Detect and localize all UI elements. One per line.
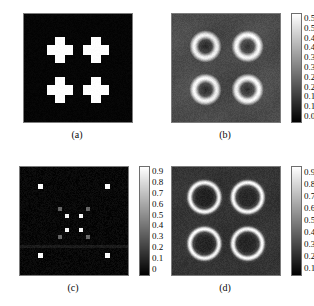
colorbar-tick-label: 0.2 bbox=[304, 82, 314, 91]
panel-a: (a) bbox=[23, 13, 133, 123]
colorbar-tick-label: 0.9 bbox=[304, 168, 314, 177]
panel-d-colorbar: 0.90.80.70.60.50.40.30.20.1 bbox=[291, 166, 314, 274]
colorbar-tick-label: 0.1 bbox=[304, 102, 314, 111]
panel-a-image bbox=[23, 13, 133, 123]
colorbar-tick-label: 0.5 bbox=[304, 216, 314, 225]
panel-a-label: (a) bbox=[23, 129, 131, 140]
colorbar-tick-label: 0.9 bbox=[152, 167, 163, 176]
panel-d-colorbar-strip bbox=[291, 166, 302, 276]
colorbar-tick-label: 0.2 bbox=[152, 243, 163, 252]
panel-d-image bbox=[171, 166, 281, 276]
panel-d-label: (d) bbox=[171, 282, 279, 293]
colorbar-tick-label: 0.4 bbox=[304, 43, 314, 52]
colorbar-tick-label: 0 bbox=[152, 264, 157, 273]
panel-d-colorbar-gradient bbox=[292, 167, 301, 275]
panel-b-colorbar: 0.550.50.450.40.350.30.250.20.150.10.05 bbox=[291, 13, 314, 121]
panel-c-label: (c) bbox=[19, 282, 127, 293]
colorbar-tick-label: 0.7 bbox=[152, 189, 163, 198]
panel-d-colorbar-ticks: 0.90.80.70.60.50.40.30.20.1 bbox=[304, 166, 314, 274]
colorbar-tick-label: 0.05 bbox=[304, 112, 314, 121]
colorbar-tick-label: 0.5 bbox=[152, 210, 163, 219]
panel-d-canvas bbox=[172, 167, 280, 275]
panel-b-colorbar-gradient bbox=[292, 14, 301, 122]
colorbar-tick-label: 0.8 bbox=[152, 178, 163, 187]
panel-c-image bbox=[19, 166, 129, 276]
colorbar-tick-label: 0.25 bbox=[304, 72, 314, 81]
panel-b: 0.550.50.450.40.350.30.250.20.150.10.05 … bbox=[171, 13, 281, 123]
panel-c-colorbar-strip bbox=[139, 166, 150, 276]
panel-c: 0.90.80.70.60.50.40.30.20.10 (c) bbox=[19, 166, 129, 276]
colorbar-tick-label: 0.3 bbox=[304, 63, 314, 72]
panel-b-image bbox=[171, 13, 281, 123]
colorbar-tick-label: 0.35 bbox=[304, 53, 314, 62]
panel-b-colorbar-strip bbox=[291, 13, 302, 123]
colorbar-tick-label: 0.3 bbox=[304, 240, 314, 249]
panel-d: 0.90.80.70.60.50.40.30.20.1 (d) bbox=[171, 166, 281, 276]
figure-container: (a) 0.550.50.450.40.350.30.250.20.150.10… bbox=[0, 0, 314, 306]
panel-a-canvas bbox=[24, 14, 132, 122]
colorbar-tick-label: 0.4 bbox=[304, 228, 314, 237]
panel-b-canvas bbox=[172, 14, 280, 122]
colorbar-tick-label: 0.3 bbox=[152, 232, 163, 241]
colorbar-tick-label: 0.6 bbox=[152, 199, 163, 208]
panel-b-colorbar-ticks: 0.550.50.450.40.350.30.250.20.150.10.05 bbox=[304, 13, 314, 121]
colorbar-tick-label: 0.55 bbox=[304, 13, 314, 22]
colorbar-tick-label: 0.5 bbox=[304, 23, 314, 32]
colorbar-tick-label: 0.2 bbox=[304, 252, 314, 261]
panel-c-colorbar-gradient bbox=[140, 167, 149, 275]
colorbar-tick-label: 0.1 bbox=[304, 264, 314, 273]
colorbar-tick-label: 0.4 bbox=[152, 221, 163, 230]
colorbar-tick-label: 0.45 bbox=[304, 33, 314, 42]
colorbar-tick-label: 0.7 bbox=[304, 192, 314, 201]
colorbar-tick-label: 0.6 bbox=[304, 204, 314, 213]
colorbar-tick-label: 0.1 bbox=[152, 253, 163, 262]
colorbar-tick-label: 0.15 bbox=[304, 92, 314, 101]
panel-b-label: (b) bbox=[171, 129, 279, 140]
colorbar-tick-label: 0.8 bbox=[304, 180, 314, 189]
panel-c-canvas bbox=[20, 167, 128, 275]
